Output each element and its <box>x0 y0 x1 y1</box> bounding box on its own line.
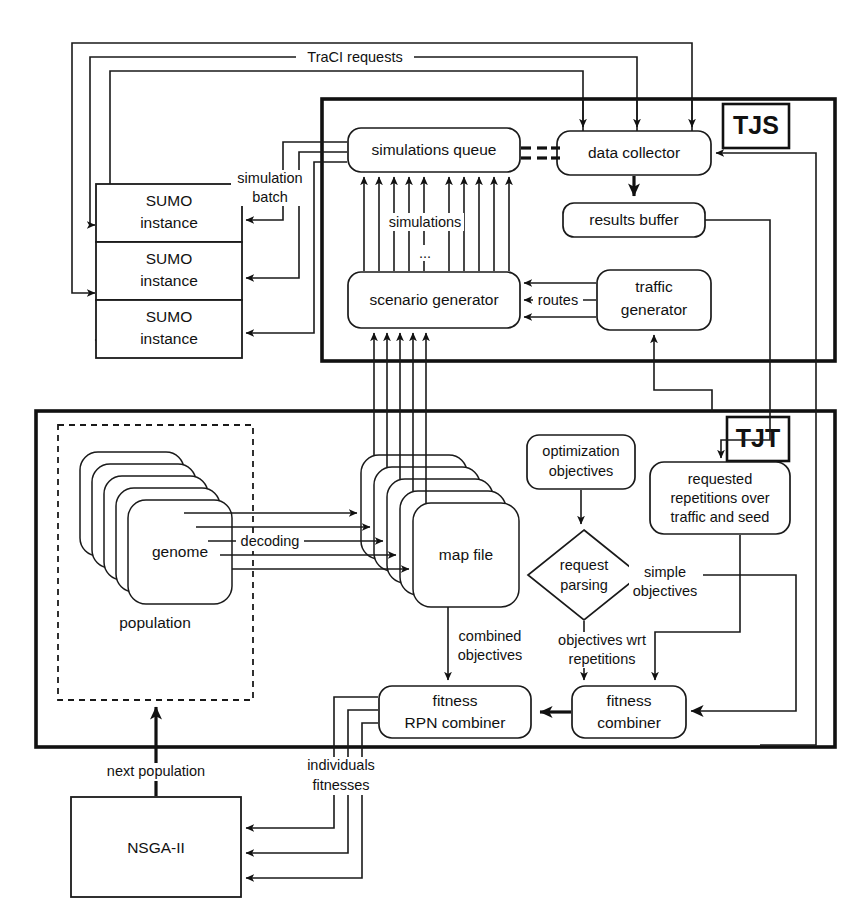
node-label: SUMO <box>146 192 193 209</box>
svg-text:routes: routes <box>538 292 578 308</box>
node-fitness-rpn-combiner[interactable]: fitness RPN combiner <box>379 686 531 738</box>
svg-text:objectives: objectives <box>633 583 697 599</box>
node-label: NSGA-II <box>127 839 185 856</box>
edges-routes: routes <box>524 283 596 317</box>
svg-text:TJT: TJT <box>736 424 780 452</box>
svg-text:TraCI requests: TraCI requests <box>307 49 402 65</box>
node-fitness-combiner[interactable]: fitness combiner <box>572 686 686 738</box>
node-label: instance <box>140 272 198 289</box>
node-label: fitness <box>607 692 652 709</box>
svg-text:simulation: simulation <box>237 170 302 186</box>
diagram-canvas: TraCI requests TJS simulations queue dat… <box>0 0 867 922</box>
node-label: instance <box>140 330 198 347</box>
node-genome[interactable]: genome <box>80 452 232 604</box>
node-label: scenario generator <box>369 291 498 308</box>
node-label: traffic and seed <box>671 509 770 525</box>
node-label: RPN combiner <box>405 714 506 731</box>
node-simulations-queue[interactable]: simulations queue <box>348 128 520 172</box>
node-sumo-instance-1[interactable]: SUMO instance <box>96 184 242 242</box>
svg-text:objectives: objectives <box>458 647 522 663</box>
svg-text:objectives wrt: objectives wrt <box>558 632 646 648</box>
node-optimization-objectives[interactable]: optimization objectives <box>527 435 635 489</box>
edge-tjt-to-traffic-generator <box>654 335 712 411</box>
svg-text:...: ... <box>419 245 431 261</box>
edge-repetitions-to-fitness-combiner <box>655 535 740 680</box>
node-data-collector[interactable]: data collector <box>557 131 711 175</box>
svg-text:combined: combined <box>459 628 522 644</box>
svg-text:simulations: simulations <box>389 214 462 230</box>
node-label: optimization <box>542 443 619 459</box>
node-label: combiner <box>597 714 661 731</box>
node-label: fitness <box>433 692 478 709</box>
node-sumo-instance-2[interactable]: SUMO instance <box>96 242 242 300</box>
edges-into-data-collector <box>583 99 692 127</box>
node-label: instance <box>140 214 198 231</box>
edges-simulations: simulations ... <box>364 177 509 271</box>
node-label: requested <box>688 471 753 487</box>
node-scenario-generator[interactable]: scenario generator <box>348 272 520 328</box>
svg-text:repetitions: repetitions <box>569 651 636 667</box>
edge-queue-collector-dashed <box>521 148 560 158</box>
group-tag-tjt: TJT <box>727 417 789 461</box>
group-tag-tjs: TJS <box>723 104 789 148</box>
node-label: SUMO <box>146 308 193 325</box>
edges-individuals-fitnesses: individuals fitnesses <box>246 697 388 878</box>
architecture-diagram: TraCI requests TJS simulations queue dat… <box>0 0 867 922</box>
svg-text:simple: simple <box>644 564 686 580</box>
node-requested-repetitions[interactable]: requested repetitions over traffic and s… <box>650 462 790 534</box>
node-map-file[interactable]: map file <box>361 455 519 607</box>
edges-simulation-batch: simulation batch <box>231 142 347 333</box>
svg-text:TJS: TJS <box>733 111 779 139</box>
node-traffic-generator[interactable]: traffic generator <box>597 270 711 330</box>
node-label: objectives <box>549 463 613 479</box>
edge-objectives-wrt-repetitions: objectives wrt repetitions <box>545 621 659 680</box>
node-label: generator <box>621 301 687 318</box>
svg-text:individuals: individuals <box>307 757 375 773</box>
node-label: genome <box>152 543 208 560</box>
edge-next-population: next population <box>92 707 220 796</box>
traci-requests-label: TraCI requests <box>296 48 414 66</box>
node-request-parsing[interactable]: request parsing <box>528 530 640 620</box>
node-label: simulations queue <box>372 141 497 158</box>
svg-text:fitnesses: fitnesses <box>312 777 369 793</box>
subgroup-label: population <box>119 614 191 631</box>
node-label: results buffer <box>589 211 678 228</box>
svg-text:next population: next population <box>107 763 205 779</box>
node-sumo-instance-3[interactable]: SUMO instance <box>96 300 242 358</box>
node-label: traffic <box>635 278 673 295</box>
node-label: map file <box>439 546 493 563</box>
node-label: request <box>560 557 608 573</box>
node-label: SUMO <box>146 250 193 267</box>
svg-text:decoding: decoding <box>241 533 300 549</box>
edge-combined-objectives: combined objectives <box>448 607 528 680</box>
svg-text:batch: batch <box>252 189 287 205</box>
node-nsga-ii[interactable]: NSGA-II <box>71 797 241 897</box>
node-label: parsing <box>560 577 608 593</box>
node-label: data collector <box>588 144 680 161</box>
node-label: repetitions over <box>670 490 769 506</box>
node-results-buffer[interactable]: results buffer <box>563 203 705 237</box>
